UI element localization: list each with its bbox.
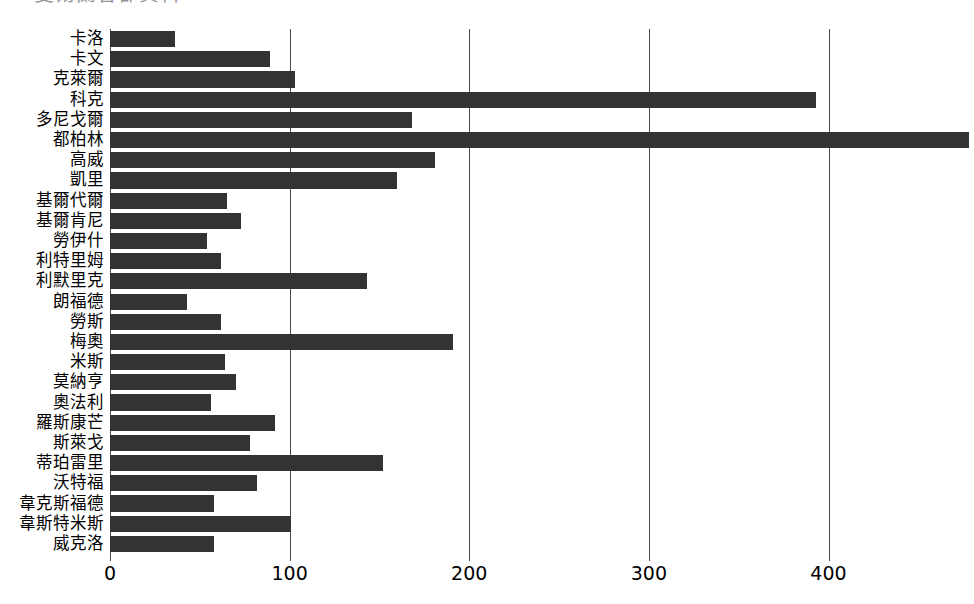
plot-area xyxy=(110,29,974,554)
y-axis-label: 威克洛 xyxy=(53,535,104,553)
tick-mark-200 xyxy=(469,554,470,561)
y-axis-label: 米斯 xyxy=(70,353,104,371)
bar xyxy=(110,132,969,148)
bar-row xyxy=(110,150,974,170)
y-axis-label: 梅奧 xyxy=(70,333,104,351)
x-tick-label: 100 xyxy=(271,562,307,584)
x-tick-label: 200 xyxy=(451,562,487,584)
x-axis-tick-labels: 0100200300400 xyxy=(0,562,974,598)
y-axis-label: 蒂珀雷里 xyxy=(36,454,104,472)
bar xyxy=(110,172,397,188)
bar-row xyxy=(110,29,974,49)
y-axis-label: 凱里 xyxy=(70,171,104,189)
bar-row xyxy=(110,473,974,493)
bars-layer xyxy=(110,29,974,554)
bar-row xyxy=(110,170,974,190)
bar-row xyxy=(110,231,974,251)
x-tick-label: 0 xyxy=(104,562,116,584)
bar xyxy=(110,253,221,269)
y-axis-label: 多尼戈爾 xyxy=(36,111,104,129)
bar xyxy=(110,516,291,532)
bar xyxy=(110,415,275,431)
bar-row xyxy=(110,392,974,412)
bar-row xyxy=(110,69,974,89)
y-axis-label: 羅斯康芒 xyxy=(36,414,104,432)
bar xyxy=(110,152,435,168)
bar xyxy=(110,92,816,108)
bar xyxy=(110,435,250,451)
bar xyxy=(110,455,383,471)
bar-row xyxy=(110,292,974,312)
bar xyxy=(110,112,412,128)
y-axis-label: 基爾肯尼 xyxy=(36,212,104,230)
bar-row xyxy=(110,211,974,231)
bar-row xyxy=(110,514,974,534)
y-axis-label: 科克 xyxy=(70,91,104,109)
bar-chart-figure: 愛爾蘭各郡資料 卡洛卡文克萊爾科克多尼戈爾都柏林高威凱里基爾代爾基爾肯尼勞伊什利… xyxy=(0,0,974,604)
bar-row xyxy=(110,90,974,110)
bar xyxy=(110,233,207,249)
y-axis-label: 克萊爾 xyxy=(53,70,104,88)
bar-row xyxy=(110,352,974,372)
y-axis-label: 勞斯 xyxy=(70,313,104,331)
bar xyxy=(110,213,241,229)
bar-row xyxy=(110,251,974,271)
bar-row xyxy=(110,110,974,130)
y-axis-label: 韋斯特米斯 xyxy=(19,515,104,533)
y-axis-label: 韋克斯福德 xyxy=(19,495,104,513)
y-axis-label: 奧法利 xyxy=(53,394,104,412)
tick-mark-400 xyxy=(829,554,830,561)
bar-row xyxy=(110,453,974,473)
bar-row xyxy=(110,130,974,150)
bar xyxy=(110,71,295,87)
bar xyxy=(110,294,187,310)
bar xyxy=(110,495,214,511)
bar xyxy=(110,193,227,209)
bar-row xyxy=(110,534,974,554)
y-axis-label: 基爾代爾 xyxy=(36,192,104,210)
y-axis-label: 斯萊戈 xyxy=(53,434,104,452)
bar-row xyxy=(110,372,974,392)
bar-row xyxy=(110,49,974,69)
tick-mark-0 xyxy=(110,554,111,561)
y-axis-label: 朗福德 xyxy=(53,293,104,311)
bar xyxy=(110,334,453,350)
x-tick-label: 300 xyxy=(631,562,667,584)
y-axis-label: 利默里克 xyxy=(36,272,104,290)
y-axis-category-labels: 卡洛卡文克萊爾科克多尼戈爾都柏林高威凱里基爾代爾基爾肯尼勞伊什利特里姆利默里克朗… xyxy=(0,29,104,554)
x-tick-label: 400 xyxy=(810,562,846,584)
bar xyxy=(110,31,175,47)
chart-title-clipped: 愛爾蘭各郡資料 xyxy=(34,0,181,5)
y-axis-label: 沃特福 xyxy=(53,474,104,492)
bar xyxy=(110,536,214,552)
y-axis-label: 利特里姆 xyxy=(36,252,104,270)
y-axis-label: 莫納亨 xyxy=(53,373,104,391)
bar-row xyxy=(110,493,974,513)
bar xyxy=(110,394,211,410)
tick-mark-300 xyxy=(649,554,650,561)
bar-row xyxy=(110,271,974,291)
bar xyxy=(110,374,236,390)
bar xyxy=(110,475,257,491)
bar-row xyxy=(110,312,974,332)
y-axis-label: 卡洛 xyxy=(70,30,104,48)
y-axis-label: 勞伊什 xyxy=(53,232,104,250)
bar xyxy=(110,354,225,370)
bar xyxy=(110,314,221,330)
bar xyxy=(110,273,367,289)
y-axis-label: 卡文 xyxy=(70,50,104,68)
tick-mark-100 xyxy=(290,554,291,561)
bar-row xyxy=(110,413,974,433)
bar-row xyxy=(110,433,974,453)
bar-row xyxy=(110,191,974,211)
y-axis-label: 都柏林 xyxy=(53,131,104,149)
bar-row xyxy=(110,332,974,352)
bar xyxy=(110,51,270,67)
y-axis-label: 高威 xyxy=(70,151,104,169)
